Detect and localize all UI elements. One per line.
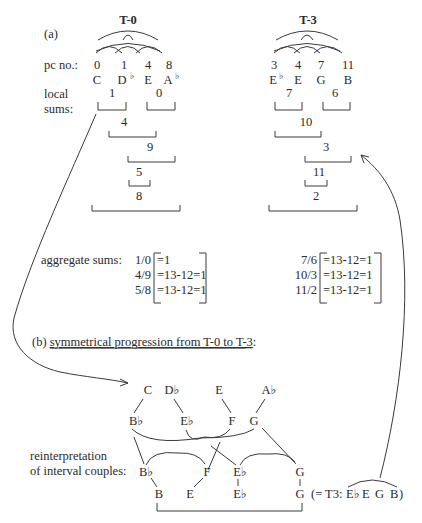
t0-sum-1: 1 <box>109 86 115 100</box>
svg-text:E♭: E♭ <box>233 487 247 501</box>
t3-sum-6: 6 <box>332 86 338 100</box>
svg-text:E♭: E♭ <box>233 465 247 479</box>
t3-pc-1: 4 <box>295 58 302 72</box>
svg-text:E♭: E♭ <box>180 414 194 428</box>
t0-sum-0: 0 <box>156 86 162 100</box>
svg-text:G: G <box>295 465 304 479</box>
svg-text:D♭: D♭ <box>165 383 180 397</box>
t3-aggregate-sums: 7/6 10/3 11/2 =13-12=1 =13-12=1 =13-12=1 <box>295 253 381 303</box>
t3-agg-eq-2: =13-12=1 <box>323 283 373 297</box>
t0-pc-3: 8 <box>166 58 172 72</box>
diagram-canvas: (a) T-0 T-3 pc no.: 0 1 4 8 3 4 7 11 C D… <box>0 0 422 523</box>
t0-sum-8: 8 <box>136 189 142 203</box>
svg-text:G: G <box>375 487 384 501</box>
t0-sum-4: 4 <box>121 115 128 129</box>
t0-note-0: C <box>93 73 101 87</box>
t3-sum-10: 10 <box>300 115 313 129</box>
svg-text:B: B <box>390 487 398 501</box>
t3-pc-3: 11 <box>342 58 354 72</box>
t3-pc-2: 7 <box>318 58 324 72</box>
t0-sum-5: 5 <box>136 165 142 179</box>
t3-agg-pair-1: 10/3 <box>295 268 317 282</box>
progression-bottom-row: B E E♭ G <box>155 487 305 501</box>
svg-text:): ) <box>399 487 403 501</box>
part-a-label: (a) <box>44 27 58 41</box>
svg-text:E: E <box>215 383 223 397</box>
local-sums-label-1: local <box>44 87 69 101</box>
t3-note-3: B <box>344 73 352 87</box>
voice-leading-lines-1 <box>134 399 265 413</box>
t0-pc-0: 0 <box>94 58 100 72</box>
t3-agg-pair-2: 11/2 <box>295 283 317 297</box>
t0-title: T-0 <box>119 13 137 27</box>
t0-aggregate-sums: 1/0 4/9 5/8 =1 =13-12=1 =13-12=1 <box>135 253 207 303</box>
t3-note-1: E <box>294 73 302 87</box>
curved-arrow-right <box>361 155 405 478</box>
t0-agg-pair-1: 4/9 <box>135 268 151 282</box>
t3-agg-eq-1: =13-12=1 <box>323 268 373 282</box>
svg-text:A♭: A♭ <box>262 383 277 397</box>
svg-text:E: E <box>362 487 370 501</box>
t3-agg-eq-0: =13-12=1 <box>323 253 373 267</box>
t3-note-0: E <box>269 73 277 87</box>
progression-arcs-3 <box>146 453 295 466</box>
svg-text:B♭: B♭ <box>139 465 153 479</box>
reinterpretation-label-1: reinterpretation <box>30 449 108 463</box>
t3-note-0-flat: ♭ <box>279 71 283 81</box>
progression-top-row: C D♭ E A♭ <box>144 383 277 397</box>
t3-local-sum-brackets: 7 6 10 3 11 2 <box>269 86 357 211</box>
svg-text:B: B <box>155 487 163 501</box>
svg-text:C: C <box>144 383 152 397</box>
t0-agg-eq-1: =13-12=1 <box>157 268 207 282</box>
t0-pc-2: 4 <box>145 58 152 72</box>
t0-agg-pair-2: 5/8 <box>135 283 151 297</box>
svg-text:B♭: B♭ <box>129 414 143 428</box>
bottom-bracket <box>157 503 302 511</box>
t0-note-2: E <box>144 73 152 87</box>
svg-text:E: E <box>186 487 194 501</box>
t0-note-1: D <box>117 73 126 87</box>
t0-sum-9: 9 <box>147 140 153 154</box>
t3-sum-2: 2 <box>313 189 319 203</box>
t3-title: T-3 <box>299 13 317 27</box>
t0-note-3: A <box>163 73 172 87</box>
aggregate-sums-label: aggregate sums: <box>41 253 122 267</box>
pc-row-label: pc no.: <box>44 58 78 72</box>
t3-note-2: G <box>316 73 325 87</box>
t0-note-3-flat: ♭ <box>175 71 179 81</box>
t3-pc-0: 3 <box>271 58 277 72</box>
reinterpretation-label-2: of interval couples: <box>30 464 127 478</box>
svg-text:(= T3:: (= T3: <box>311 487 342 501</box>
svg-text:F: F <box>204 465 211 479</box>
t0-agg-eq-0: =1 <box>157 253 170 267</box>
t3-interval-arcs <box>274 31 342 53</box>
part-b-heading: (b) symmetrical progression from T-0 to … <box>32 335 256 349</box>
t3-sum-3: 3 <box>323 140 329 154</box>
svg-text:G: G <box>249 414 258 428</box>
local-sums-label-2: sums: <box>44 102 73 116</box>
voice-leading-lines-2 <box>134 428 296 470</box>
t0-note-1-flat: ♭ <box>130 71 134 81</box>
svg-text:F: F <box>229 414 236 428</box>
voice-leading-lines-3 <box>151 478 300 487</box>
t0-agg-eq-2: =13-12=1 <box>157 283 207 297</box>
t3-sum-11: 11 <box>313 165 325 179</box>
progression-third-row: B♭ F E♭ G <box>139 465 305 479</box>
t3-sum-7: 7 <box>286 86 292 100</box>
t3-result-annotation: (= T3: E♭ E G B ) <box>311 480 403 501</box>
svg-text:E♭: E♭ <box>346 487 360 501</box>
progression-arcs-2 <box>132 429 254 441</box>
t0-interval-arcs <box>96 31 162 53</box>
t0-local-sum-brackets: 1 0 4 9 5 8 <box>92 86 180 211</box>
t0-agg-pair-0: 1/0 <box>135 253 151 267</box>
t0-pc-1: 1 <box>121 58 127 72</box>
t3-agg-pair-0: 7/6 <box>301 253 317 267</box>
progression-second-row: B♭ E♭ F G <box>129 414 259 428</box>
svg-text:G: G <box>295 487 304 501</box>
